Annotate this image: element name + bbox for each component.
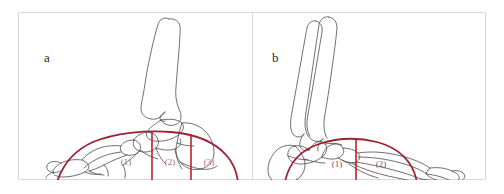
panel-letter-a: a [44,50,50,66]
panel-a: (1) (2) (3) a [19,12,252,180]
panel-letter-b: b [272,50,279,66]
segment-label-a-3: (3) [204,157,215,167]
panel-b: (1) (2) b [253,12,486,180]
segment-label-b-2: (2) [376,159,387,169]
figure-container: (1) (2) (3) a [0,0,504,194]
segment-label-a-2: (2) [165,157,176,167]
segment-label-a-1: (1) [121,157,132,167]
panel-b-drawing: (1) (2) [253,12,486,180]
panel-a-drawing: (1) (2) (3) [19,12,252,180]
segment-label-b-1: (1) [332,159,343,169]
skeleton-outline-b [268,17,465,180]
